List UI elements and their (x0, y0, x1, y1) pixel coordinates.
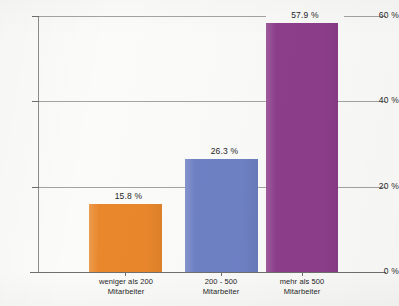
x-tick-3 (302, 272, 303, 276)
bar-value-label-3: 57.9 % (266, 10, 344, 20)
bar-value-label-2: 26.3 % (185, 146, 264, 156)
x-tick-1 (125, 272, 126, 276)
y-axis-label-40: 40 % (365, 96, 399, 105)
category-line-2: Mitarbeiter (254, 287, 350, 297)
plot-area: 60 % 40 % 20 % 0 % 15.8 % 26.3 % 57.9 % … (0, 0, 399, 306)
bar-mehr-als-500 (266, 23, 338, 272)
y-axis-label-60: 60 % (365, 11, 399, 20)
y-tick-60 (32, 16, 39, 17)
bar-shading (89, 204, 162, 272)
y-axis-label-20: 20 % (365, 182, 399, 191)
category-line-1: mehr als 500 (254, 277, 350, 287)
bar-value-label-1: 15.8 % (89, 191, 168, 201)
y-axis-label-0: 0 % (365, 267, 399, 276)
y-tick-20 (32, 187, 39, 188)
x-tick-2 (221, 272, 222, 276)
y-axis-line (38, 16, 39, 273)
category-line-1: weniger als 200 (76, 277, 176, 287)
y-tick-0 (32, 272, 39, 273)
x-axis-category-label-3: mehr als 500 Mitarbeiter (254, 277, 350, 296)
x-axis-category-label-1: weniger als 200 Mitarbeiter (76, 277, 176, 296)
bar-weniger-als-200 (89, 204, 162, 272)
bar-chart: 60 % 40 % 20 % 0 % 15.8 % 26.3 % 57.9 % … (0, 0, 399, 306)
bar-shading (266, 23, 338, 272)
axis-baseline (30, 272, 386, 273)
category-line-2: Mitarbeiter (76, 287, 176, 297)
bar-200-500 (185, 159, 258, 272)
y-tick-40 (32, 101, 39, 102)
bar-shading (185, 159, 258, 272)
